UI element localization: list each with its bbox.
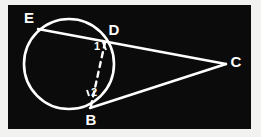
angle-label-1: 1: [94, 40, 100, 52]
figure-root: E D B C 1 2: [0, 0, 261, 137]
angle-label-2: 2: [91, 86, 97, 98]
point-label-c: C: [231, 53, 242, 70]
geometry-diagram: E D B C 1 2: [0, 0, 261, 137]
point-label-e: E: [24, 9, 34, 26]
point-label-d: D: [109, 21, 120, 38]
point-label-b: B: [86, 111, 97, 128]
